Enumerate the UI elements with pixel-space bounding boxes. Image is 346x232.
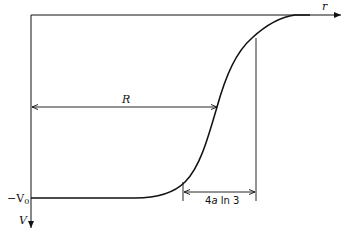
woods-saxon-diagram: r V −V0 R 4a ln 3 (0, 0, 346, 232)
v-axis-label: V (19, 214, 28, 227)
potential-curve (31, 15, 310, 198)
minus-v0-label: −V0 (7, 192, 29, 206)
radius-label: R (121, 93, 130, 106)
r-axis-label: r (322, 0, 328, 13)
width-label: 4a ln 3 (205, 195, 239, 206)
